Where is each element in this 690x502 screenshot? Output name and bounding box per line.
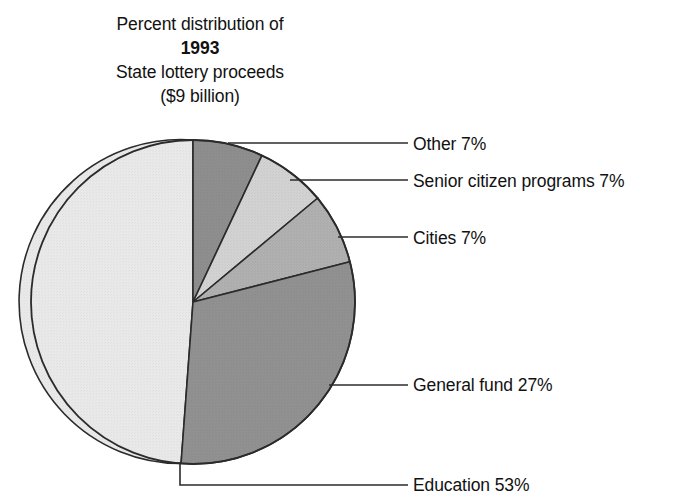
- slice-label-senior-citizen-programs: Senior citizen programs 7%: [413, 173, 624, 191]
- pie-slice-education: [19, 140, 193, 464]
- slice-label-cities: Cities 7%: [413, 230, 486, 248]
- slice-label-general-fund: General fund 27%: [413, 377, 552, 395]
- pie-chart-figure: Percent distribution of 1993 State lotte…: [0, 0, 690, 502]
- pie-svg: [0, 0, 690, 502]
- leader-line-education: [180, 462, 408, 485]
- slice-label-other: Other 7%: [413, 136, 486, 154]
- slice-label-education: Education 53%: [413, 477, 529, 495]
